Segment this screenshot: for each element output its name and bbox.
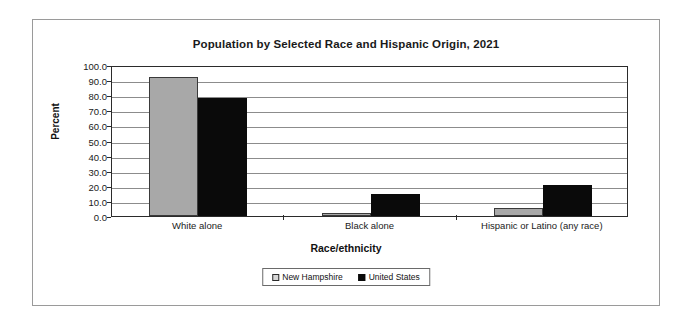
bar-new-hampshire (149, 77, 198, 216)
y-axis-tick-label: 0.0 (65, 212, 107, 223)
y-axis-tick-label: 20.0 (65, 181, 107, 192)
x-axis-tick-mark (283, 215, 284, 220)
bar-group (494, 67, 592, 216)
legend-item: New Hampshire (272, 272, 342, 282)
y-axis-tick-mark (107, 217, 111, 218)
y-axis-tick-label: 80.0 (65, 91, 107, 102)
y-axis-tick-label: 60.0 (65, 121, 107, 132)
x-axis-title: Race/ethnicity (33, 242, 659, 254)
y-axis-tick-label: 40.0 (65, 151, 107, 162)
x-axis-ticks: White aloneBlack aloneHispanic or Latino… (111, 220, 628, 236)
x-axis-tick-label: Hispanic or Latino (any race) (481, 220, 602, 231)
y-axis-tick-label: 100.0 (65, 61, 107, 72)
legend-swatch-united-states (359, 274, 366, 281)
y-axis-ticks: 0.010.020.030.040.050.060.070.080.090.01… (63, 66, 107, 217)
legend-item: United States (359, 272, 420, 282)
legend-item-label: United States (369, 272, 420, 282)
bar-group (322, 67, 420, 216)
plot-wrapper (111, 66, 628, 217)
chart-legend: New HampshireUnited States (262, 268, 430, 286)
y-axis-tick-label: 10.0 (65, 196, 107, 207)
x-axis-tick-mark (456, 215, 457, 220)
y-axis-title: Percent (50, 92, 61, 152)
x-axis-tick-label: Black alone (345, 220, 394, 231)
plot-area (111, 66, 628, 217)
y-axis-tick-label: 50.0 (65, 136, 107, 147)
bar-united-states (543, 185, 592, 216)
legend-item-label: New Hampshire (282, 272, 342, 282)
chart-figure: Population by Selected Race and Hispanic… (32, 19, 660, 306)
y-axis-tick-label: 30.0 (65, 166, 107, 177)
y-axis-tick-label: 90.0 (65, 76, 107, 87)
y-axis-tick-label: 70.0 (65, 106, 107, 117)
bar-united-states (371, 194, 420, 216)
legend-swatch-new-hampshire (272, 274, 279, 281)
chart-title: Population by Selected Race and Hispanic… (33, 38, 659, 50)
bar-united-states (198, 98, 247, 216)
bar-new-hampshire (322, 213, 371, 216)
x-axis-tick-label: White alone (172, 220, 222, 231)
bar-new-hampshire (494, 208, 543, 216)
bar-group (149, 67, 247, 216)
